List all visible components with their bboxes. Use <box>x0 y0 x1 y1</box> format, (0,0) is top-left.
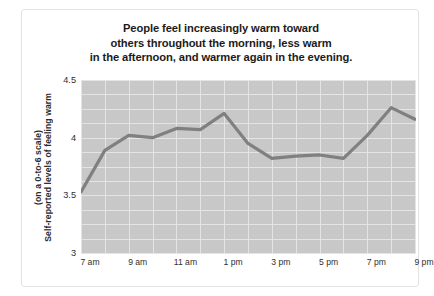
y-axis-tick-label: 4.5 <box>52 75 76 85</box>
x-axis-tick-label: 7 am <box>80 257 99 267</box>
chart-title-line-1: People feel increasingly warm toward <box>22 21 420 36</box>
x-axis-tick-label: 5 pm <box>319 257 338 267</box>
y-axis-ticks: 33.544.5 <box>81 80 416 253</box>
chart-title-line-3: in the afternoon, and warmer again in th… <box>22 50 420 65</box>
y-axis-tick-label: 4 <box>52 133 76 143</box>
grid-line-horizontal <box>81 253 416 254</box>
x-axis-tick-label: 9 am <box>128 257 147 267</box>
y-axis-tick-label: 3.5 <box>52 190 76 200</box>
chart-figure: People feel increasingly warm toward oth… <box>21 9 419 287</box>
x-axis-tick-label: 7 pm <box>367 257 386 267</box>
chart-title-line-2: others throughout the morning, less warm <box>22 36 420 51</box>
y-axis-label: Self-reported levels of feeling warm (on… <box>26 80 60 255</box>
x-axis-ticks: 7 am9 am11 am1 pm3 pm5 pm7 pm9 pm <box>81 257 416 273</box>
y-axis-label-line-1: Self-reported levels of feeling warm <box>43 93 53 242</box>
x-axis-tick-label: 3 pm <box>271 257 290 267</box>
chart-title: People feel increasingly warm toward oth… <box>22 21 420 65</box>
y-axis-label-line-2: (on a 0-to-6 scale) <box>33 130 43 205</box>
x-axis-tick-label: 1 pm <box>224 257 243 267</box>
y-axis-tick-label: 3 <box>52 248 76 258</box>
x-axis-tick-label: 11 am <box>174 257 197 267</box>
x-axis-tick-label: 9 pm <box>414 257 433 267</box>
